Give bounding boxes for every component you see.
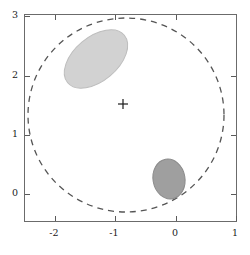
ytick-label-3: 3 [8, 10, 18, 20]
plot-svg [25, 15, 238, 223]
xtick-label-0: -2 [49, 228, 58, 238]
ytick-label-2: 2 [8, 70, 18, 80]
ytick-label-0: 0 [8, 188, 18, 198]
xtick-label-1: -1 [109, 228, 118, 238]
plot-area [24, 14, 237, 222]
figure: -2 -1 0 1 0 1 2 3 [0, 0, 250, 255]
large-ellipse [54, 18, 139, 99]
data-graphics [25, 15, 238, 223]
ytick-label-1: 1 [8, 129, 18, 139]
xtick-label-2: 0 [172, 228, 178, 238]
center-plus-marker [118, 99, 128, 109]
xtick-label-3: 1 [232, 228, 238, 238]
